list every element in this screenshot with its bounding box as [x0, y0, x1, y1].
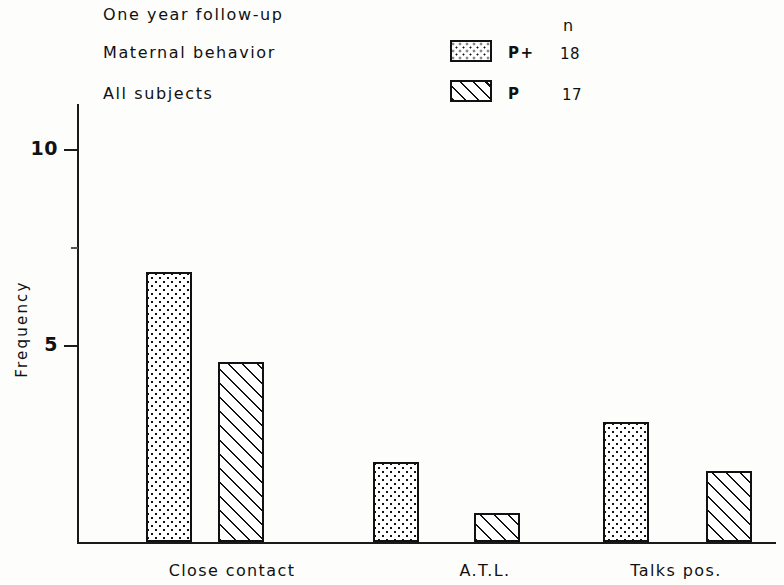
series-1-label: Maternal behavior — [103, 43, 276, 62]
y-tick-minor — [71, 247, 78, 249]
y-axis-title: Frequency — [13, 269, 31, 389]
bar-Pplus-a-t-l — [373, 462, 419, 542]
y-tick-label-10: 10 — [14, 137, 58, 159]
bar-P-a-t-l — [474, 513, 520, 542]
x-axis-line — [77, 542, 776, 544]
legend-swatch-hatch — [450, 80, 492, 102]
y-axis-line — [77, 104, 79, 544]
y-tick-10 — [64, 149, 78, 151]
bar-Pplus-close-contact — [146, 272, 192, 542]
x-axis-label-talks-pos: Talks pos. — [630, 561, 721, 580]
legend-code-p-plus: P+ — [508, 44, 535, 62]
legend-count-p: 17 — [562, 86, 582, 104]
legend-count-p-plus: 18 — [560, 45, 580, 63]
legend-swatch-dots — [450, 40, 492, 62]
legend-code-p: P — [508, 85, 521, 103]
chart-title: One year follow-up — [103, 5, 284, 24]
x-axis-label-close-contact: Close contact — [169, 561, 296, 580]
y-tick-label-5: 5 — [14, 333, 58, 355]
bar-P-talks-pos — [706, 471, 752, 542]
bar-P-close-contact — [218, 362, 264, 542]
y-tick-5 — [64, 345, 78, 347]
chart-figure: One year follow-up Maternal behavior All… — [0, 0, 784, 585]
x-axis-label-a-t-l: A.T.L. — [459, 561, 510, 580]
series-2-label: All subjects — [103, 84, 213, 103]
bar-Pplus-talks-pos — [603, 422, 649, 542]
legend-n-header: n — [563, 16, 574, 35]
